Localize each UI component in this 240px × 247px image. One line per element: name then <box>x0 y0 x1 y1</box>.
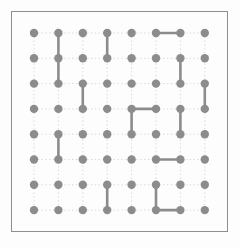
grid-node[interactable] <box>176 130 184 138</box>
grid-node[interactable] <box>103 54 111 62</box>
grid-node[interactable] <box>103 29 111 37</box>
grid-node[interactable] <box>30 155 38 163</box>
grid-node[interactable] <box>79 155 87 163</box>
node-layer[interactable] <box>30 29 209 215</box>
grid-node[interactable] <box>127 29 135 37</box>
grid-node[interactable] <box>103 181 111 189</box>
grid-node[interactable] <box>127 54 135 62</box>
grid-node[interactable] <box>201 181 209 189</box>
grid-node[interactable] <box>176 29 184 37</box>
grid-node[interactable] <box>103 155 111 163</box>
grid-node[interactable] <box>79 105 87 113</box>
grid-node[interactable] <box>127 105 135 113</box>
grid-node[interactable] <box>79 206 87 214</box>
grid-node[interactable] <box>54 54 62 62</box>
grid-node[interactable] <box>152 54 160 62</box>
grid-node[interactable] <box>176 155 184 163</box>
grid-node[interactable] <box>54 155 62 163</box>
grid-node[interactable] <box>152 29 160 37</box>
puzzle-root: Dot Grid Connection Puzzle <box>0 0 240 247</box>
grid-node[interactable] <box>176 79 184 87</box>
grid-node[interactable] <box>201 79 209 87</box>
grid-node[interactable] <box>152 130 160 138</box>
grid-node[interactable] <box>152 155 160 163</box>
grid-node[interactable] <box>176 105 184 113</box>
grid-node[interactable] <box>79 54 87 62</box>
dot-grid-puzzle-canvas[interactable] <box>0 0 240 247</box>
grid-node[interactable] <box>54 181 62 189</box>
grid-node[interactable] <box>103 79 111 87</box>
grid-node[interactable] <box>127 181 135 189</box>
grid-node[interactable] <box>79 181 87 189</box>
grid-node[interactable] <box>152 105 160 113</box>
grid-node[interactable] <box>54 105 62 113</box>
grid-node[interactable] <box>176 181 184 189</box>
grid-node[interactable] <box>201 206 209 214</box>
grid-node[interactable] <box>176 206 184 214</box>
grid-node[interactable] <box>127 130 135 138</box>
grid-node[interactable] <box>201 29 209 37</box>
grid-node[interactable] <box>152 79 160 87</box>
grid-node[interactable] <box>30 181 38 189</box>
grid-node[interactable] <box>54 130 62 138</box>
grid-node[interactable] <box>103 206 111 214</box>
grid-node[interactable] <box>30 79 38 87</box>
grid-node[interactable] <box>30 130 38 138</box>
grid-node[interactable] <box>79 29 87 37</box>
grid-node[interactable] <box>127 79 135 87</box>
grid-node[interactable] <box>152 181 160 189</box>
grid-node[interactable] <box>30 54 38 62</box>
grid-node[interactable] <box>79 130 87 138</box>
grid-node[interactable] <box>54 79 62 87</box>
grid-node[interactable] <box>201 155 209 163</box>
grid-node[interactable] <box>30 29 38 37</box>
grid-node[interactable] <box>201 54 209 62</box>
grid-node[interactable] <box>30 206 38 214</box>
grid-node[interactable] <box>152 206 160 214</box>
grid-node[interactable] <box>103 130 111 138</box>
grid-node[interactable] <box>103 105 111 113</box>
grid-node[interactable] <box>201 130 209 138</box>
grid-node[interactable] <box>127 155 135 163</box>
grid-node[interactable] <box>127 206 135 214</box>
grid-node[interactable] <box>201 105 209 113</box>
grid-node[interactable] <box>54 29 62 37</box>
grid-node[interactable] <box>79 79 87 87</box>
grid-node[interactable] <box>176 54 184 62</box>
grid-node[interactable] <box>30 105 38 113</box>
grid-node[interactable] <box>54 206 62 214</box>
